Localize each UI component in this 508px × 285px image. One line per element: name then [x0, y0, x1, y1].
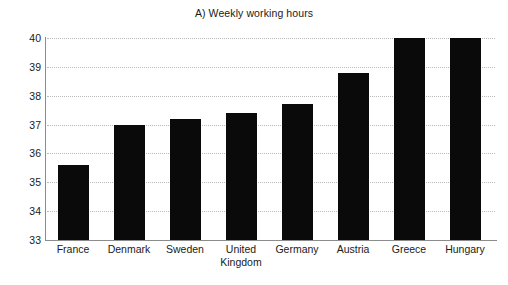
- y-tick-label: 38: [1, 90, 41, 102]
- y-tick-label: 34: [1, 205, 41, 217]
- gridline: [47, 38, 495, 39]
- bar: [170, 119, 201, 240]
- plot-area: [47, 38, 495, 240]
- y-tick-label: 36: [1, 147, 41, 159]
- chart-title: A) Weekly working hours: [0, 7, 508, 19]
- y-axis-tick-labels: 3334353637383940: [0, 0, 41, 285]
- bar: [450, 38, 481, 240]
- x-tick-label: Hungary: [429, 243, 501, 256]
- bar: [338, 73, 369, 240]
- x-axis-line: [45, 240, 497, 241]
- bar: [394, 38, 425, 240]
- chart-figure: A) Weekly working hours 3334353637383940…: [0, 0, 508, 285]
- y-tick-label: 37: [1, 119, 41, 131]
- y-tick-label: 39: [1, 61, 41, 73]
- y-tick-label: 35: [1, 176, 41, 188]
- bar: [226, 113, 257, 240]
- bar: [282, 104, 313, 240]
- bar: [58, 165, 89, 240]
- x-axis-tick-labels: FranceDenmarkSwedenUnitedKingdomGermanyA…: [47, 243, 495, 283]
- bar: [114, 125, 145, 240]
- y-tick-label: 40: [1, 32, 41, 44]
- y-tick-label: 33: [1, 234, 41, 246]
- gridline: [47, 67, 495, 68]
- y-axis-line: [45, 37, 46, 241]
- gridline: [47, 96, 495, 97]
